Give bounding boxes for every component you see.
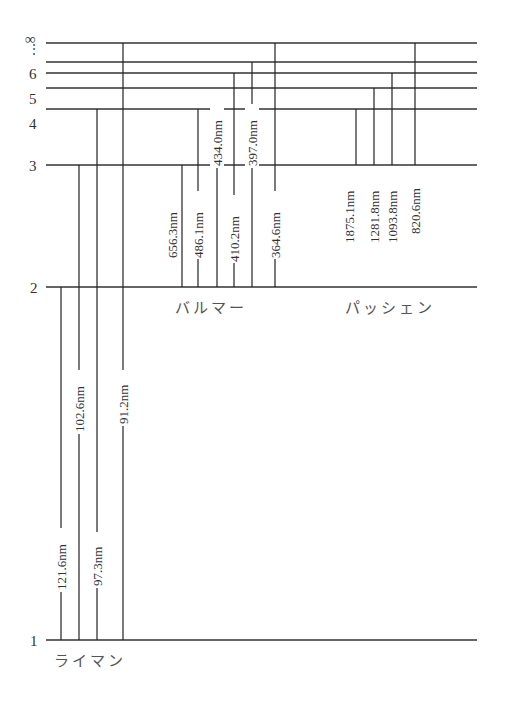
paschen-wavelength-4: 820.6nm <box>408 188 423 234</box>
energy-level-diagram: 1 2 3 4 5 6 ⋮ ∞ 121.6nm 102.6nm 97.3nm 9… <box>0 0 505 702</box>
level-2-label: 2 <box>30 280 38 296</box>
lyman-series-label: ライマン <box>54 652 126 670</box>
level-3-label: 3 <box>29 158 37 174</box>
level-4-label: 4 <box>29 116 37 132</box>
paschen-series-label: パッシェン <box>345 299 435 317</box>
paschen-wavelength-2: 1281.8nm <box>367 191 382 243</box>
balmer-wavelength-3: 434.0nm <box>210 120 225 166</box>
energy-levels <box>46 43 477 640</box>
level-1-label: 1 <box>30 633 38 649</box>
paschen-wavelength-1: 1875.1nm <box>342 191 357 243</box>
level-5-label: 5 <box>29 91 37 107</box>
balmer-series: 656.3nm 486.1nm 434.0nm 410.2nm 397.0nm … <box>165 43 283 317</box>
balmer-wavelength-2: 486.1nm <box>191 212 206 258</box>
lyman-wavelength-4: 91.2nm <box>116 385 131 424</box>
level-6-label: 6 <box>29 66 37 82</box>
balmer-series-label: バルマー <box>175 299 247 317</box>
lyman-wavelength-2: 102.6nm <box>72 386 87 432</box>
paschen-series: 1875.1nm 1281.8nm 1093.8nm 820.6nm パッシェン <box>342 43 435 317</box>
balmer-wavelength-6: 364.6nm <box>268 212 283 258</box>
balmer-wavelength-5: 397.0nm <box>245 120 260 166</box>
lyman-series: 121.6nm 102.6nm 97.3nm 91.2nm ライマン <box>54 43 131 670</box>
level-labels: 1 2 3 4 5 6 ⋮ ∞ <box>25 31 40 649</box>
level-infinity-label: ∞ <box>25 31 36 47</box>
balmer-wavelength-4: 410.2nm <box>227 216 242 262</box>
lyman-wavelength-3: 97.3nm <box>90 547 105 586</box>
lyman-wavelength-1: 121.6nm <box>54 544 69 590</box>
paschen-wavelength-3: 1093.8nm <box>385 191 400 243</box>
balmer-wavelength-1: 656.3nm <box>165 212 180 258</box>
